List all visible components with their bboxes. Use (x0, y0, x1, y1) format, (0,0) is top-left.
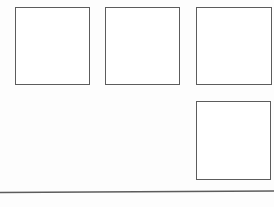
wireframe-box-4[interactable] (196, 101, 271, 180)
baseline-rule-icon (0, 186, 274, 198)
baseline-rule-container (0, 186, 274, 198)
wireframe-box-3[interactable] (196, 7, 272, 85)
empty-content-region (0, 90, 190, 186)
wireframe-box-1[interactable] (15, 7, 90, 85)
wireframe-box-2[interactable] (105, 7, 180, 85)
baseline-rule (0, 191, 274, 193)
wireframe-canvas (0, 0, 274, 207)
